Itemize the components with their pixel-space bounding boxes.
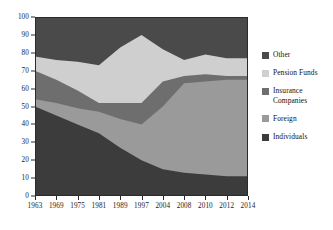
x-tick-mark — [205, 196, 206, 200]
legend-swatch-icon — [262, 115, 269, 122]
y-tick-label: 70 — [22, 67, 29, 75]
area-layers — [35, 17, 248, 196]
x-tick-label: 2004 — [155, 202, 170, 210]
x-tick-mark — [163, 196, 164, 200]
x-axis: 1963196919751981198919972004200820102012… — [35, 196, 248, 222]
legend-item-pension-funds[interactable]: Pension Funds — [262, 68, 333, 77]
legend-label: Other — [273, 50, 290, 59]
y-tick-label: 90 — [22, 31, 29, 39]
y-tick-label: 100 — [18, 13, 29, 21]
x-tick-mark — [56, 196, 57, 200]
legend-item-insurance-companies[interactable]: Insurance Companies — [262, 86, 333, 104]
x-tick-mark — [248, 196, 249, 200]
legend-label: Pension Funds — [273, 68, 318, 77]
y-axis: 0102030405060708090100 — [0, 17, 35, 196]
y-tick-label: 10 — [22, 174, 29, 182]
y-tick-label: 40 — [22, 120, 29, 128]
x-tick-mark — [35, 196, 36, 200]
x-tick-mark — [120, 196, 121, 200]
plot-area — [35, 17, 248, 196]
x-tick-mark — [227, 196, 228, 200]
y-tick-label: 20 — [22, 156, 29, 164]
x-tick-label: 1997 — [134, 202, 149, 210]
plot-svg — [35, 17, 248, 196]
x-tick-label: 1981 — [92, 202, 107, 210]
legend-swatch-icon — [262, 88, 269, 95]
y-tick-label: 50 — [22, 103, 29, 111]
x-tick-label: 2008 — [177, 202, 192, 210]
y-tick-label: 0 — [25, 192, 29, 200]
x-tick-mark — [78, 196, 79, 200]
legend-swatch-icon — [262, 134, 269, 141]
legend-label: Individuals — [273, 132, 307, 141]
x-tick-mark — [142, 196, 143, 200]
y-tick-label: 30 — [22, 138, 29, 146]
legend-item-other[interactable]: Other — [262, 50, 333, 59]
y-tick-label: 80 — [22, 49, 29, 57]
legend-swatch-icon — [262, 70, 269, 77]
x-tick-mark — [184, 196, 185, 200]
legend-swatch-icon — [262, 52, 269, 59]
x-tick-label: 1969 — [49, 202, 64, 210]
x-tick-mark — [99, 196, 100, 200]
x-tick-label: 1989 — [113, 202, 128, 210]
legend-item-foreign[interactable]: Foreign — [262, 114, 333, 123]
x-tick-label: 1975 — [70, 202, 85, 210]
stacked-area-chart-figure: 0102030405060708090100 19631969197519811… — [0, 0, 333, 230]
legend-item-individuals[interactable]: Individuals — [262, 132, 333, 141]
x-tick-label: 2010 — [198, 202, 213, 210]
chart-legend: OtherPension FundsInsurance CompaniesFor… — [262, 50, 333, 150]
x-tick-label: 2012 — [219, 202, 234, 210]
x-tick-label: 2014 — [241, 202, 256, 210]
y-tick-label: 60 — [22, 85, 29, 93]
x-tick-label: 1963 — [28, 202, 43, 210]
legend-label: Foreign — [273, 114, 297, 123]
legend-label: Insurance Companies — [273, 86, 333, 104]
